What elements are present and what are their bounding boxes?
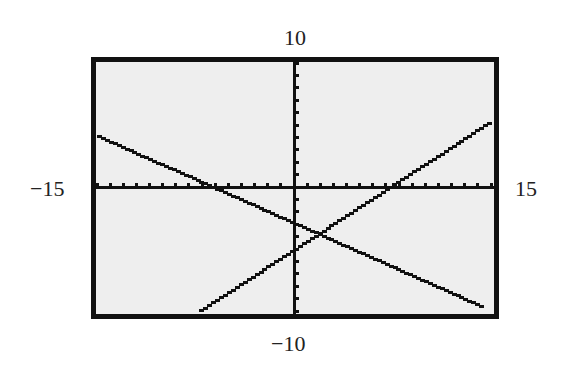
x-axis-tick [96,183,99,186]
x-max-label: 15 [515,178,537,200]
y-min-label: −10 [271,333,305,355]
x-axis-tick [490,183,493,186]
y-axis [293,62,296,314]
x-axis-tick [109,183,112,186]
y-axis-tick [296,272,299,275]
x-axis-tick [463,183,466,186]
y-axis-tick [296,124,299,127]
x-axis-tick [135,183,138,186]
x-axis-tick [266,183,269,186]
x-axis-tick [214,183,217,186]
x-axis-tick [122,183,125,186]
x-axis-tick [319,183,322,186]
y-axis-tick [296,310,299,313]
x-axis-tick [437,183,440,186]
y-axis-tick [296,235,299,238]
y-axis-tick [296,111,299,114]
y-axis-tick [296,161,299,164]
axes [96,62,494,314]
y-axis-tick [296,148,299,151]
y-axis-tick [296,285,299,288]
x-axis-tick [411,183,414,186]
y-axis-tick [296,297,299,300]
x-axis-tick [306,183,309,186]
y-axis-tick [296,99,299,102]
y-axis-tick [296,173,299,176]
series-line-increasing [199,122,492,312]
series-line-decreasing [97,135,484,308]
y-axis-tick [296,62,299,65]
y-axis-tick [296,198,299,201]
y-axis-tick [296,74,299,77]
x-axis-tick [358,183,361,186]
y-axis-tick [296,210,299,213]
x-axis-tick [345,183,348,186]
x-axis-tick [450,183,453,186]
x-axis-tick [371,183,374,186]
x-axis-tick [279,183,282,186]
y-axis-tick [296,260,299,263]
x-axis-tick [174,183,177,186]
x-axis-tick [161,183,164,186]
x-axis-tick [332,183,335,186]
graph-plot-area [96,62,494,314]
x-axis-tick [240,183,243,186]
calculator-graph-screen [91,57,499,319]
x-axis-tick [187,183,190,186]
x-axis-tick [384,183,387,186]
x-axis-tick [476,183,479,186]
x-axis-tick [227,183,230,186]
x-axis-tick [148,183,151,186]
x-min-label: −15 [30,178,64,200]
y-axis-tick [296,86,299,89]
x-axis-tick [424,183,427,186]
y-max-label: 10 [284,27,306,49]
y-axis-tick [296,136,299,139]
x-axis-tick [253,183,256,186]
